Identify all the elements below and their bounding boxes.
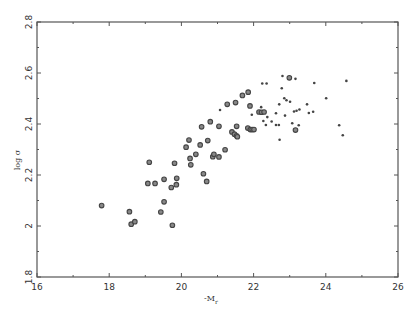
- data-point-small: [295, 109, 298, 112]
- data-point-small: [325, 97, 328, 100]
- data-point-small: [265, 82, 268, 85]
- data-point-small: [297, 124, 300, 127]
- data-point-large: [184, 145, 189, 150]
- data-point-large: [204, 179, 209, 184]
- x-tick-label: 24: [320, 282, 332, 292]
- data-point-large: [172, 161, 177, 166]
- data-point-large: [174, 182, 179, 187]
- x-tick-label: 20: [176, 282, 188, 292]
- data-point-small: [284, 114, 287, 117]
- data-point-large: [248, 104, 253, 109]
- y-tick-label: 2.2: [24, 168, 34, 182]
- data-point-small: [250, 114, 253, 117]
- plot-frame: [37, 22, 398, 277]
- data-point-small: [298, 108, 301, 111]
- data-point-small: [280, 87, 283, 90]
- data-point-large: [287, 76, 292, 81]
- x-tick-label: 18: [103, 282, 115, 292]
- data-point-large: [217, 124, 222, 129]
- data-point-large: [208, 119, 213, 124]
- y-axis-label: log σ: [13, 149, 22, 170]
- data-point-small: [270, 120, 273, 123]
- y-tick-label: 2: [24, 223, 34, 229]
- data-point-large: [162, 199, 167, 204]
- data-point-large: [127, 209, 132, 214]
- data-point-large: [246, 90, 251, 95]
- y-tick-label: 1.8: [24, 270, 34, 285]
- data-point-large: [234, 124, 239, 129]
- data-point-small: [341, 134, 344, 137]
- data-point-large: [188, 156, 193, 161]
- data-point-small: [291, 122, 294, 125]
- data-point-small: [265, 124, 268, 127]
- data-point-small: [306, 103, 309, 106]
- data-point-small: [278, 124, 281, 127]
- scatter-chart: 161820222426 1.822.22.42.62.8 -Mr log σ: [0, 0, 419, 321]
- data-point-large: [174, 176, 179, 181]
- data-point-large: [212, 152, 217, 157]
- y-axis-ticks: 1.822.22.42.62.8: [24, 15, 398, 285]
- data-point-small: [281, 75, 284, 78]
- data-point-small: [313, 82, 316, 85]
- data-point-large: [205, 138, 210, 143]
- data-point-large: [162, 177, 167, 182]
- data-point-large: [133, 219, 138, 224]
- data-point-large: [262, 110, 267, 115]
- data-point-small: [293, 110, 296, 113]
- data-point-large: [235, 134, 240, 139]
- data-point-large: [199, 125, 204, 130]
- data-point-small: [260, 106, 263, 109]
- data-point-large: [240, 93, 245, 98]
- data-point-small: [308, 112, 311, 115]
- y-tick-label: 2.4: [24, 117, 34, 132]
- data-point-large: [188, 163, 193, 168]
- y-tick-label: 2.6: [24, 66, 34, 81]
- data-point-small: [338, 124, 341, 127]
- x-tick-label: 22: [248, 282, 259, 292]
- data-point-large: [187, 138, 192, 143]
- data-point-large: [169, 185, 174, 190]
- data-point-large: [252, 127, 257, 132]
- x-axis-label: -Mr: [204, 294, 218, 305]
- x-tick-label: 26: [392, 282, 404, 292]
- data-point-small: [261, 82, 264, 85]
- data-point-small: [275, 112, 278, 115]
- data-point-large: [223, 147, 228, 152]
- data-point-large: [233, 100, 238, 105]
- data-point-large: [146, 181, 151, 186]
- data-point-small: [219, 109, 222, 112]
- x-axis-label-main: -M: [204, 294, 215, 303]
- data-point-small: [289, 101, 292, 104]
- data-point-large: [217, 155, 222, 160]
- y-tick-label: 2.8: [24, 15, 34, 30]
- data-point-large: [153, 181, 158, 186]
- data-point-large: [201, 171, 206, 176]
- data-point-small: [262, 120, 265, 123]
- data-point-small: [312, 110, 315, 113]
- data-point-large: [159, 210, 164, 215]
- data-point-large: [194, 152, 199, 157]
- data-point-small: [285, 99, 288, 102]
- data-point-small: [345, 80, 348, 83]
- data-point-large: [170, 223, 175, 228]
- data-points: [99, 75, 347, 228]
- data-point-small: [266, 116, 269, 119]
- x-axis-label-sub: r: [215, 298, 218, 305]
- data-point-small: [283, 97, 286, 100]
- data-point-large: [293, 128, 298, 133]
- data-point-large: [225, 102, 230, 107]
- data-point-small: [278, 139, 281, 142]
- data-point-large: [198, 143, 203, 148]
- data-point-small: [275, 124, 278, 127]
- data-point-large: [147, 160, 152, 165]
- data-point-small: [294, 78, 297, 81]
- data-point-small: [278, 103, 281, 106]
- data-point-large: [99, 203, 104, 208]
